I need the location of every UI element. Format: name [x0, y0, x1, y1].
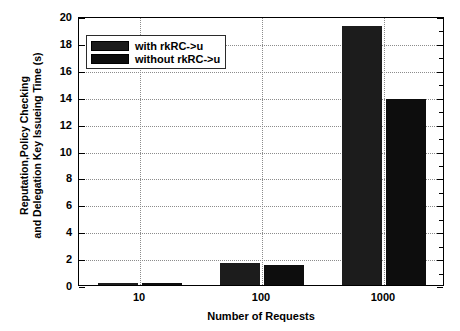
axis-tick-minor	[439, 220, 443, 221]
x-tick-label: 10	[104, 291, 174, 303]
y-tick-label: 4	[48, 226, 72, 238]
legend-label-series-1: with rkRC->u	[135, 40, 203, 52]
y-tick-label: 0	[48, 280, 72, 292]
axis-tick-major	[79, 153, 85, 154]
y-axis-label-line2: and Delegation Key Issueing Time (s)	[31, 52, 44, 238]
y-tick-label: 18	[48, 38, 72, 50]
chart-legend: with rkRC->u without rkRC->u	[86, 35, 226, 69]
y-tick-label: 8	[48, 172, 72, 184]
y-tick-label: 16	[48, 65, 72, 77]
axis-tick-major	[79, 179, 85, 180]
axis-tick-major	[437, 287, 443, 288]
axis-tick-major	[437, 260, 443, 261]
axis-tick-major	[437, 206, 443, 207]
axis-tick-major	[437, 18, 443, 19]
axis-tick-minor	[439, 85, 443, 86]
axis-tick-major	[437, 72, 443, 73]
y-tick-label: 10	[48, 146, 72, 158]
legend-swatch-series-2	[91, 54, 129, 64]
y-tick-label: 2	[48, 253, 72, 265]
axis-tick-minor	[439, 193, 443, 194]
bar	[386, 99, 426, 285]
axis-tick-minor	[439, 31, 443, 32]
axis-tick-major	[437, 45, 443, 46]
axis-tick-major	[437, 233, 443, 234]
chart-figure: Reputation,Policy Checking and Delegatio…	[0, 0, 460, 331]
y-tick-label: 12	[48, 119, 72, 131]
y-tick-label: 14	[48, 92, 72, 104]
axis-tick-major	[79, 126, 85, 127]
axis-tick-major	[437, 179, 443, 180]
axis-tick-major	[79, 206, 85, 207]
y-tick-label: 20	[48, 11, 72, 23]
y-tick-label: 6	[48, 199, 72, 211]
bar	[220, 263, 260, 285]
bar	[264, 265, 304, 285]
axis-tick-minor	[439, 112, 443, 113]
axis-tick-minor	[439, 58, 443, 59]
axis-tick-minor	[439, 139, 443, 140]
axis-tick-major	[79, 72, 85, 73]
bar	[142, 283, 182, 285]
y-axis-label-line1: Reputation,Policy Checking	[19, 76, 31, 215]
axis-tick-minor	[439, 247, 443, 248]
axis-tick-major	[79, 260, 85, 261]
axis-tick-minor	[439, 274, 443, 275]
x-axis-label: Number of Requests	[78, 310, 444, 322]
gridline-vertical	[384, 18, 385, 285]
legend-item: with rkRC->u	[91, 39, 220, 52]
legend-swatch-series-1	[91, 41, 129, 51]
axis-tick-major	[437, 126, 443, 127]
bar	[342, 26, 382, 285]
axis-tick-major	[79, 99, 85, 100]
legend-label-series-2: without rkRC->u	[135, 53, 220, 65]
x-tick-label: 1000	[348, 291, 418, 303]
axis-tick-major	[79, 287, 85, 288]
x-tick-label: 100	[226, 291, 296, 303]
axis-tick-major	[79, 45, 85, 46]
axis-tick-major	[79, 233, 85, 234]
axis-tick-major	[437, 99, 443, 100]
gridline-horizontal	[79, 72, 443, 73]
axis-tick-major	[437, 153, 443, 154]
axis-tick-major	[79, 18, 85, 19]
gridline-vertical	[262, 18, 263, 285]
axis-tick-minor	[439, 166, 443, 167]
legend-item: without rkRC->u	[91, 52, 220, 65]
bar	[98, 283, 138, 285]
